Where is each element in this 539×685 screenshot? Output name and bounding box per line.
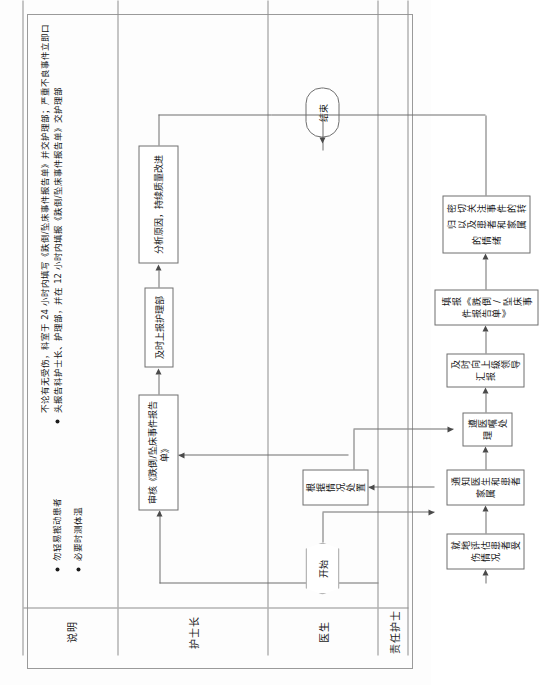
node-review-report[interactable]: 审核《跌倒/坠床事件报告单》 bbox=[139, 395, 179, 511]
swimlane-header-head-nurse: 护士长 bbox=[119, 608, 268, 656]
node-start[interactable]: 开始 bbox=[306, 543, 340, 595]
swimlane-label-responsible-nurse: 责任护士 bbox=[386, 610, 401, 654]
arrowhead-rn2-to-rn3 bbox=[482, 447, 488, 453]
node-label-review-report: 审核《跌倒/坠床事件报告单》 bbox=[147, 399, 171, 507]
swimlane-header-responsible-nurse: 责任护士 bbox=[379, 608, 409, 656]
connector-rn4-to-rn5 bbox=[486, 332, 487, 354]
node-notify-doctor-family[interactable]: 通知医生和患者家属 bbox=[447, 470, 525, 506]
node-doctor-handling[interactable]: 根据情况处置 bbox=[303, 470, 369, 506]
arrowhead-doctor-to-rn3 bbox=[448, 427, 454, 433]
connector-rn3-to-rn4 bbox=[486, 394, 487, 413]
note-bullet-2 bbox=[77, 568, 81, 572]
node-label-follow-orders: 遵医嘱处理 bbox=[466, 418, 510, 442]
arrowhead-hn2-to-hn3 bbox=[155, 265, 161, 271]
node-fill-incident-report[interactable]: 填报《跌倒/坠床事件报告单》 bbox=[435, 290, 539, 326]
node-follow-up-outcome[interactable]: 密切关注事件的转归以及患者和家属的情绪 bbox=[443, 196, 531, 254]
node-label-fill-incident-report: 填报《跌倒/坠床事件报告单》 bbox=[438, 296, 536, 320]
arrowhead-rn3-to-rn4 bbox=[482, 388, 488, 394]
node-label-start: 开始 bbox=[316, 560, 329, 578]
node-label-notify-doctor-family: 通知医生和患者家属 bbox=[450, 476, 522, 500]
node-label-report-to-nursing-dept: 及时上报护理部 bbox=[153, 296, 165, 359]
connector-start-right bbox=[323, 513, 324, 543]
arrowhead-rn1-to-rn2 bbox=[482, 506, 488, 512]
note-bullet-3 bbox=[56, 420, 60, 424]
arrowhead-in-to-rn1 bbox=[482, 570, 488, 576]
connector-doctor-to-rn3-h bbox=[354, 430, 355, 470]
arrowhead-to-end bbox=[319, 138, 325, 144]
arrowhead-rn4-to-rn5 bbox=[482, 326, 488, 332]
node-report-to-nursing-dept[interactable]: 及时上报护理部 bbox=[145, 288, 174, 368]
arrowhead-start-down bbox=[429, 510, 435, 516]
arrowhead-rn2-to-doctor bbox=[369, 485, 375, 491]
flowchart-canvas: 说明 勿轻易搬动患者 必要时测体温 不论有无受伤，科室于 24 小时内填写《跌倒… bbox=[23, 1, 409, 656]
connector-rn6-out-up bbox=[323, 115, 486, 116]
swimlane-label-doctor: 医生 bbox=[316, 621, 331, 643]
node-label-report-to-leader: 及时向上级领导汇报 bbox=[450, 359, 522, 383]
node-label-assess-injury: 就地评估患者受伤情况 bbox=[450, 540, 522, 564]
node-label-follow-up-outcome: 密切关注事件的转归以及患者和家属的情绪 bbox=[446, 201, 528, 249]
connector-rn6-out bbox=[486, 116, 487, 196]
connector-rn1-to-rn2 bbox=[486, 512, 487, 534]
arrowhead-rn5-to-rn6 bbox=[482, 254, 488, 260]
connector-in-to-rn1 bbox=[486, 576, 487, 584]
swimlane-notes: 说明 bbox=[23, 1, 119, 656]
note-text-1: 勿轻易搬动患者 bbox=[52, 451, 64, 561]
swimlane-header-notes: 说明 bbox=[24, 608, 118, 656]
note-text-3: 不论有无受伤，科室于 24 小时内填写《跌倒/坠床事件报告单》并交护理部；严重不… bbox=[39, 21, 64, 413]
connector-end-rail bbox=[272, 115, 323, 116]
node-label-doctor-handling: 根据情况处置 bbox=[306, 482, 366, 494]
connector-rn2-to-rn3 bbox=[486, 453, 487, 470]
node-report-to-leader[interactable]: 及时向上级领导汇报 bbox=[447, 354, 525, 388]
connector-hn2-to-hn3 bbox=[159, 271, 160, 288]
connector-return-rail-top bbox=[160, 512, 161, 584]
swimlane-label-head-nurse: 护士长 bbox=[186, 616, 201, 649]
swimlane-header-doctor: 医生 bbox=[269, 608, 378, 656]
node-follow-orders[interactable]: 遵医嘱处理 bbox=[463, 413, 513, 447]
arrowhead-rn5-to-hn1 bbox=[179, 453, 185, 459]
node-analyze-improve[interactable]: 分析原因，持续质量改进 bbox=[139, 146, 179, 264]
connector-rn5-to-rn6 bbox=[486, 260, 487, 290]
node-assess-injury[interactable]: 就地评估患者受伤情况 bbox=[447, 534, 525, 570]
connector-hn3-right bbox=[159, 115, 160, 146]
swimlane-head-nurse: 护士长 bbox=[119, 1, 269, 656]
connector-end-in bbox=[323, 116, 324, 151]
swimlane-responsible-nurse: 责任护士 bbox=[379, 1, 409, 656]
note-bullet-1 bbox=[56, 568, 60, 572]
note-text-2: 必要时测体温 bbox=[73, 451, 85, 561]
arrowhead-hn1-to-hn2 bbox=[155, 369, 161, 375]
swimlane-label-notes: 说明 bbox=[63, 621, 78, 643]
node-label-analyze-improve: 分析原因，持续质量改进 bbox=[153, 155, 165, 254]
connector-hn3-down bbox=[159, 115, 272, 116]
connector-hn1-to-hn2 bbox=[159, 375, 160, 395]
arrowhead-return-rail bbox=[156, 511, 162, 517]
